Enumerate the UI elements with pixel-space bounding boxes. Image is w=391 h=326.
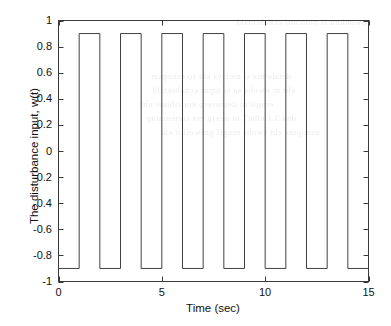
xtick-label: 10 (259, 286, 271, 298)
ytick-label: 1 (16, 14, 52, 26)
xtick-label: 15 (362, 286, 374, 298)
axes-box (59, 21, 369, 282)
ytick-label: -0.8 (12, 249, 52, 261)
waveform-line (59, 34, 369, 269)
ytick-label: -1 (12, 275, 52, 287)
xtick-label: 0 (55, 286, 61, 298)
ytick-label: 0.8 (16, 40, 52, 52)
y-axis-label: The disturbance input, w(t) (28, 66, 40, 246)
xtick-label: 5 (159, 286, 165, 298)
axis-ticks (59, 21, 370, 283)
chart-figure: 1 0.8 0.6 0.4 0.2 0 -0.2 -0.4 -0.6 -0.8 … (0, 0, 391, 326)
square-wave-plot (0, 0, 391, 326)
x-axis-label: Time (sec) (186, 302, 240, 314)
